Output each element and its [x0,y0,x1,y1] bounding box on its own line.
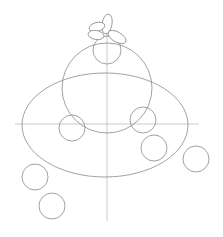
small-circle-1 [59,115,85,141]
sketch-canvas [0,0,223,237]
small-circle-2 [130,107,156,133]
small-circle-6 [39,193,65,219]
sketch-svg [0,0,223,237]
small-circle-5 [22,164,48,190]
base-ellipse [22,73,188,177]
small-circle-3 [141,135,167,161]
small-circle-4 [183,146,209,172]
flower-petals-group [87,13,128,46]
